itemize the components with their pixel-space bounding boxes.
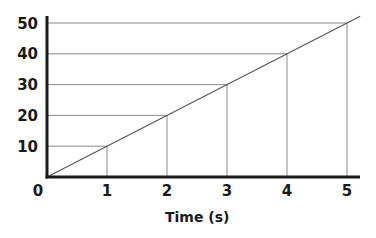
data-line (47, 16, 360, 177)
x-tick-label: 1 (102, 182, 112, 200)
y-tick-labels: 1020304050 (17, 15, 38, 156)
y-tick-label: 50 (17, 15, 38, 33)
x-tick-label: 3 (222, 182, 232, 200)
y-tick-label: 10 (17, 138, 38, 156)
x-tick-label: 5 (342, 182, 352, 200)
x-tick-label: 2 (162, 182, 172, 200)
x-axis-label: Time (s) (165, 209, 229, 225)
x-tick-label: 0 (33, 182, 43, 200)
x-tick-label: 4 (282, 182, 292, 200)
distance-time-chart: 1020304050 012345 Time (s) (0, 0, 376, 238)
x-tick-labels: 012345 (33, 182, 352, 200)
y-tick-label: 20 (17, 107, 38, 125)
y-tick-label: 30 (17, 76, 38, 94)
y-tick-label: 40 (17, 45, 38, 63)
